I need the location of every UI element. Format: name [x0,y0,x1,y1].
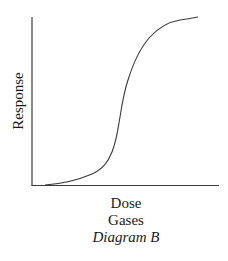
sigmoid-response-curve [45,17,198,185]
y-axis-label: Response [10,72,27,130]
diagram-subtitle: Gases [108,212,144,229]
diagram-caption: Diagram B [92,229,159,246]
x-axis-label: Dose [111,195,142,212]
